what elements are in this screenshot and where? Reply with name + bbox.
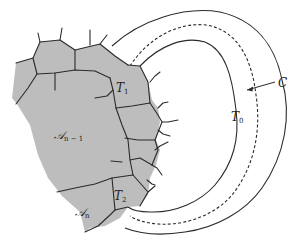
shaded-tiles-region xyxy=(12,40,160,232)
label-t2: T2 xyxy=(114,190,126,204)
tiling-figure: T1 T2 T0 C 𝒜n − 1 𝒜n xyxy=(0,0,293,242)
label-a-n-minus-1: 𝒜n − 1 xyxy=(54,130,83,143)
label-t0: T0 xyxy=(231,111,243,125)
c-arrow xyxy=(247,82,275,92)
label-t1: T1 xyxy=(116,82,128,96)
label-a-n: 𝒜n xyxy=(75,207,90,220)
label-c: C xyxy=(278,77,287,89)
diagram-canvas xyxy=(0,0,293,242)
